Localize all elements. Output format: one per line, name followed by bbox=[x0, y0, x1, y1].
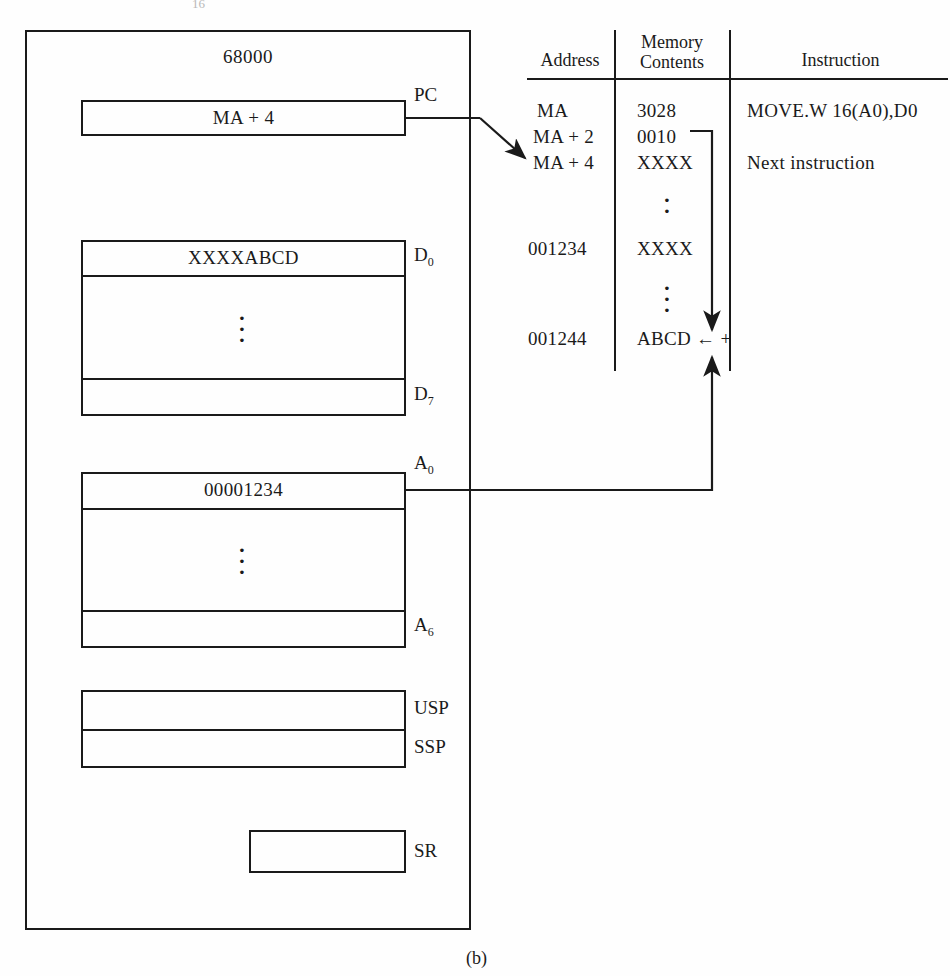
register-a6-label-sub: 6 bbox=[428, 625, 434, 639]
register-d0-label: D0 bbox=[414, 244, 434, 270]
register-pc-box: MA + 4 bbox=[81, 100, 406, 136]
displacement-arrow bbox=[690, 131, 712, 330]
register-d0-value-cell: XXXXABCD bbox=[81, 240, 406, 276]
table-header-memory-contents-line1: Memory bbox=[618, 32, 726, 52]
register-usp-value-cell bbox=[81, 690, 406, 728]
register-usp-label: USP bbox=[414, 697, 449, 719]
table-ellipsis-lower: ··· bbox=[652, 278, 682, 322]
table-row: 001244 bbox=[528, 328, 587, 350]
register-a0-value-cell: 00001234 bbox=[81, 472, 406, 508]
table-row: MA bbox=[537, 100, 568, 122]
cell-contents: XXXX bbox=[637, 238, 693, 260]
figure-canvas: 16 68000 MA + 4 PC XXXXABCD ··· D0 D7 00… bbox=[0, 0, 950, 976]
register-ssp-label: SSP bbox=[414, 736, 446, 758]
table-header-instruction: Instruction bbox=[733, 50, 948, 70]
register-a6-label: A6 bbox=[414, 614, 434, 640]
register-a6-label-base: A bbox=[414, 614, 428, 635]
register-d7-label-base: D bbox=[414, 383, 428, 404]
cell-address: 001234 bbox=[528, 238, 587, 259]
cell-instruction: MOVE.W 16(A0),D0 bbox=[747, 100, 918, 122]
table-column-rule-contents bbox=[729, 30, 731, 371]
register-sr-label: SR bbox=[414, 840, 437, 862]
cell-contents: 3028 bbox=[637, 100, 676, 122]
register-pc-value: MA + 4 bbox=[213, 107, 275, 129]
cell-address: 001244 bbox=[528, 328, 587, 349]
address-register-divider-top bbox=[81, 508, 406, 510]
table-header-address: Address bbox=[530, 50, 610, 70]
cell-contents: XXXX bbox=[637, 152, 693, 174]
register-a0-label-sub: 0 bbox=[428, 463, 434, 477]
address-register-ellipsis: ··· bbox=[222, 542, 262, 582]
table-row: MA + 4 bbox=[533, 152, 594, 174]
table-column-rule-address bbox=[614, 30, 616, 371]
register-sr-box bbox=[249, 830, 406, 873]
table-row: 001234 bbox=[528, 238, 587, 260]
table-header-rule bbox=[527, 78, 948, 80]
register-d7-label-sub: 7 bbox=[428, 394, 434, 408]
cell-contents: 0010 bbox=[637, 126, 676, 148]
data-register-ellipsis: ··· bbox=[222, 310, 262, 350]
figure-caption: (b) bbox=[466, 948, 487, 969]
cell-contents: ABCD ← + bbox=[637, 328, 731, 350]
cell-address: MA + 4 bbox=[533, 152, 594, 173]
table-ellipsis-upper: ·· bbox=[652, 190, 682, 224]
table-header-memory-contents: Memory Contents bbox=[618, 32, 726, 72]
cell-address: MA bbox=[537, 100, 568, 121]
register-a0-label: A0 bbox=[414, 452, 434, 478]
data-register-divider-bottom bbox=[81, 378, 406, 380]
address-register-divider-bottom bbox=[81, 610, 406, 612]
register-a0-label-base: A bbox=[414, 452, 428, 473]
cell-address: MA + 2 bbox=[533, 126, 594, 147]
register-d7-label: D7 bbox=[414, 383, 434, 409]
register-d0-label-sub: 0 bbox=[428, 255, 434, 269]
register-ssp-value-cell bbox=[81, 731, 406, 768]
register-d0-value: XXXXABCD bbox=[188, 247, 299, 269]
register-d0-label-base: D bbox=[414, 244, 428, 265]
register-pc-label: PC bbox=[414, 84, 437, 106]
table-row: MA + 2 bbox=[533, 126, 594, 148]
page-edge-mark: 16 bbox=[192, 0, 205, 12]
cpu-title: 68000 bbox=[25, 46, 471, 68]
table-header-memory-contents-line2: Contents bbox=[618, 52, 726, 72]
register-a0-value: 00001234 bbox=[204, 479, 283, 501]
cell-instruction: Next instruction bbox=[747, 152, 875, 174]
